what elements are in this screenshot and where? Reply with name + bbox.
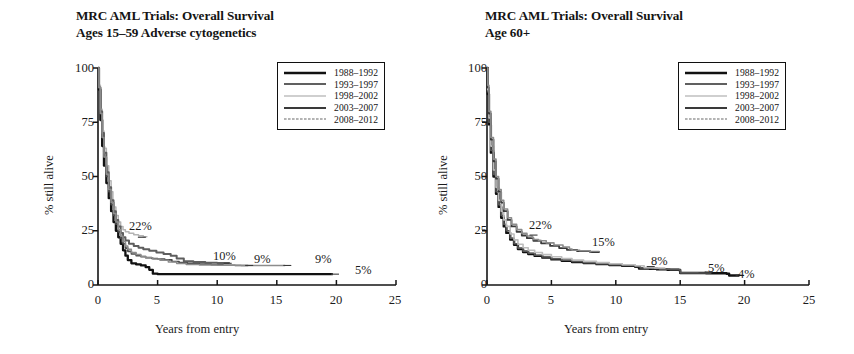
legend-label: 1993–1997 <box>334 79 378 91</box>
legend-label: 2003–2007 <box>735 102 779 114</box>
legend-swatch-line <box>684 79 735 91</box>
panel-left-ytick-75: 75 <box>58 115 94 130</box>
panel-left-annotation-9b: 9% <box>315 252 332 267</box>
legend-item[interactable]: 1993–1997 <box>283 79 378 91</box>
legend-label: 2008–2012 <box>334 113 378 125</box>
legend-item[interactable]: 1998–2002 <box>283 90 378 102</box>
panel-right-xaxis-label: Years from entry <box>564 322 648 337</box>
panel-left-xtick-15: 15 <box>264 293 288 308</box>
panel-left-ytick-100: 100 <box>58 61 94 76</box>
panel-left-annotation-9a: 9% <box>254 252 271 267</box>
legend-swatch-line <box>684 102 735 114</box>
panel-left-xtick-20: 20 <box>324 293 348 308</box>
panel-right-xtick-25: 25 <box>797 293 821 308</box>
panel-right-xtick-0: 0 <box>475 293 499 308</box>
panel-left-xtick-5: 5 <box>145 293 169 308</box>
panel-left-xtick-0: 0 <box>86 293 110 308</box>
legend-label: 1988–1992 <box>735 67 779 79</box>
panel-right-xtick-5: 5 <box>539 293 563 308</box>
survival-curves-figure: MRC AML Trials: Overall Survival Ages 15… <box>0 0 854 354</box>
panel-right-ytick-25: 25 <box>451 223 487 238</box>
panel-right-ytick-50: 50 <box>451 169 487 184</box>
panel-right-annotation-22: 22% <box>529 218 552 233</box>
panel-left-ytick-50: 50 <box>58 169 94 184</box>
legend-swatch-line <box>283 90 334 102</box>
panel-right-yaxis-label: % still alive <box>436 155 451 215</box>
panel-right-legend[interactable]: 1988–19921993–19971998–20022003–20072008… <box>678 62 786 130</box>
legend-swatch-line <box>283 102 334 114</box>
panel-right-annotation-15: 15% <box>592 235 615 250</box>
legend-label: 2008–2012 <box>735 113 779 125</box>
panel-left-ytick-25: 25 <box>58 223 94 238</box>
legend-label: 1993–1997 <box>735 79 779 91</box>
panel-right-xtick-20: 20 <box>732 293 756 308</box>
legend-swatch-line <box>283 113 334 125</box>
panel-right-ytick-100: 100 <box>451 61 487 76</box>
panel-left-xtick-10: 10 <box>205 293 229 308</box>
legend-swatch-line <box>684 67 735 79</box>
panel-left-annotation-5: 5% <box>355 263 372 278</box>
panel-right-ytick-75: 75 <box>451 115 487 130</box>
legend-item[interactable]: 2003–2007 <box>283 102 378 114</box>
legend-label: 1998–2002 <box>735 90 779 102</box>
legend-item[interactable]: 2008–2012 <box>684 113 779 125</box>
panel-right-annotation-5: 5% <box>708 261 725 276</box>
panel-left-ytick-0: 0 <box>58 277 94 292</box>
panel-left-annotation-10: 10% <box>213 249 236 264</box>
series-line-1998–2002 <box>487 68 665 269</box>
panel-right-xtick-15: 15 <box>668 293 692 308</box>
panel-right-legend-table: 1988–19921993–19971998–20022003–20072008… <box>684 67 779 125</box>
panel-right: MRC AML Trials: Overall Survival Age 60+… <box>427 0 854 354</box>
legend-item[interactable]: 1988–1992 <box>684 67 779 79</box>
panel-left-annotation-22: 22% <box>129 219 152 234</box>
legend-swatch-line <box>684 113 735 125</box>
legend-label: 1988–1992 <box>334 67 378 79</box>
panel-right-annotation-8: 8% <box>651 254 668 269</box>
legend-item[interactable]: 2003–2007 <box>684 102 779 114</box>
legend-label: 1998–2002 <box>334 90 378 102</box>
panel-right-xtick-10: 10 <box>604 293 628 308</box>
legend-item[interactable]: 1988–1992 <box>283 67 378 79</box>
panel-right-ytick-0: 0 <box>451 277 487 292</box>
legend-item[interactable]: 1998–2002 <box>684 90 779 102</box>
panel-right-annotation-4: 4% <box>738 267 755 282</box>
panel-left-legend-table: 1988–19921993–19971998–20022003–20072008… <box>283 67 378 125</box>
legend-swatch-line <box>684 90 735 102</box>
legend-item[interactable]: 1993–1997 <box>684 79 779 91</box>
panel-left-xaxis-label: Years from entry <box>155 322 239 337</box>
legend-label: 2003–2007 <box>334 102 378 114</box>
legend-swatch-line <box>283 79 334 91</box>
series-line-2008–2012 <box>98 68 285 265</box>
legend-item[interactable]: 2008–2012 <box>283 113 378 125</box>
panel-left-legend[interactable]: 1988–19921993–19971998–20022003–20072008… <box>277 62 385 130</box>
panel-left-xtick-25: 25 <box>383 293 407 308</box>
legend-swatch-line <box>283 67 334 79</box>
panel-left-yaxis-label: % still alive <box>42 155 57 215</box>
panel-left: MRC AML Trials: Overall Survival Ages 15… <box>0 0 427 354</box>
